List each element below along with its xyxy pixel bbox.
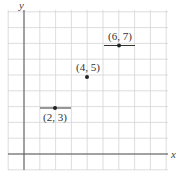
label-6-7: (6, 7) [108, 30, 132, 43]
x-axis-label: x [170, 148, 176, 160]
label-4-5: (4, 5) [76, 61, 100, 74]
y-axis-label: y [18, 0, 24, 11]
point-4-5 [85, 75, 89, 79]
grid [8, 10, 168, 170]
label-2-3: (2, 3) [43, 111, 67, 124]
point-2-3 [53, 106, 57, 110]
coordinate-plane: x y (2, 3) (4, 5) (6, 7) [0, 0, 183, 175]
point-6-7 [117, 44, 121, 48]
